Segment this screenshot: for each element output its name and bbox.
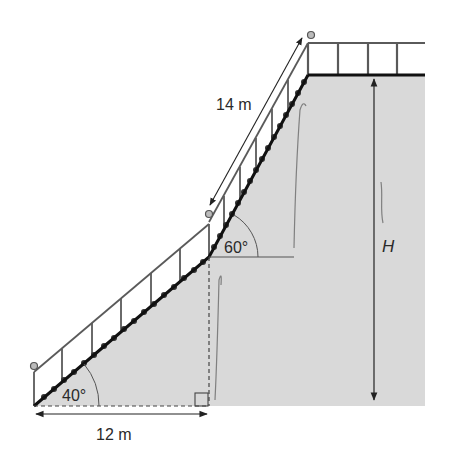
label-60-degrees: 60° — [224, 239, 248, 256]
landing-rail-knob — [206, 211, 213, 218]
top-rail-knob — [308, 32, 315, 39]
label-14m: 14 m — [216, 96, 252, 113]
lower-rail-knob — [31, 363, 38, 370]
top-railing — [308, 43, 425, 75]
label-40-degrees: 40° — [62, 387, 86, 404]
label-12m: 12 m — [96, 426, 132, 443]
staircase-diagram: 40° 60° 12 m 14 m H — [0, 0, 451, 457]
label-height-H: H — [382, 237, 395, 256]
